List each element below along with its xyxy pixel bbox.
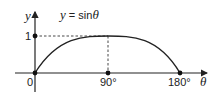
x-tick-180: 180° (168, 76, 191, 88)
point-90 (106, 71, 111, 76)
x-axis-label: θ (200, 74, 207, 89)
y-tick-1: 1 (25, 30, 31, 42)
point-180 (178, 71, 183, 76)
y-axis-label: y (23, 8, 31, 23)
chart-title: y = sinθ (58, 7, 99, 22)
sine-chart: y y = sinθ 1 0 90° 180° θ (0, 0, 219, 92)
point-y1 (33, 34, 38, 39)
origin-label: 0 (27, 76, 33, 88)
x-tick-90: 90° (100, 76, 117, 88)
sine-curve (35, 36, 180, 73)
point-origin (33, 71, 38, 76)
